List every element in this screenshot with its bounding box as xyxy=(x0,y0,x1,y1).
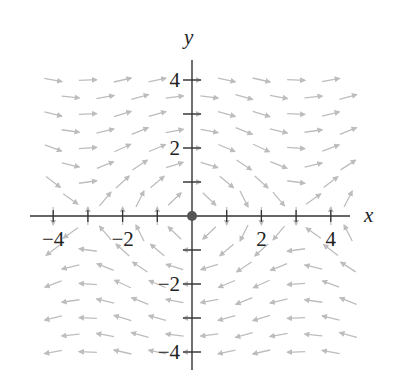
field-arrow xyxy=(44,316,61,320)
field-arrow xyxy=(44,78,62,81)
vector-field-plot: −4−22442−2−4 x y xyxy=(0,0,403,388)
field-arrow xyxy=(79,80,97,81)
field-arrow xyxy=(253,78,271,82)
field-arrow xyxy=(253,144,269,151)
field-arrow xyxy=(168,193,181,205)
field-arrow xyxy=(149,316,166,321)
field-arrow xyxy=(304,334,322,336)
field-arrow xyxy=(287,147,305,148)
field-arrow xyxy=(235,95,252,100)
field-arrow xyxy=(304,96,322,98)
field-arrow xyxy=(166,96,184,98)
field-arrow xyxy=(253,350,271,354)
field-arrow xyxy=(200,334,218,336)
field-arrow xyxy=(131,333,148,338)
field-arrow xyxy=(253,315,270,320)
field-arrow xyxy=(344,191,352,207)
x-tick-label: −2 xyxy=(111,227,133,251)
field-arrow xyxy=(114,350,132,354)
field-arrow xyxy=(237,160,252,170)
y-axis-label: y xyxy=(182,25,194,49)
field-arrow xyxy=(149,145,166,152)
field-arrow xyxy=(96,95,114,98)
field-arrow xyxy=(322,78,340,81)
field-arrow xyxy=(287,249,305,252)
field-arrow xyxy=(220,176,234,188)
field-arrow xyxy=(339,95,356,100)
field-arrow xyxy=(340,128,357,135)
field-arrow xyxy=(235,333,252,338)
field-arrow xyxy=(324,177,338,188)
field-arrow xyxy=(114,144,130,151)
field-arrow xyxy=(339,333,356,338)
field-arrow xyxy=(150,244,164,256)
field-arrow xyxy=(114,280,130,287)
field-arrow xyxy=(322,350,340,353)
field-arrow xyxy=(166,334,184,336)
field-arrow xyxy=(63,194,78,204)
field-arrow xyxy=(270,264,287,271)
field-arrow xyxy=(322,145,339,151)
field-arrow xyxy=(99,192,111,206)
field-arrow xyxy=(305,265,323,269)
field-arrow xyxy=(79,249,97,252)
field-arrow xyxy=(322,281,339,287)
field-arrow xyxy=(96,299,114,303)
field-arrow xyxy=(62,130,80,133)
field-arrow xyxy=(116,176,129,188)
field-arrow xyxy=(218,112,235,117)
field-arrow xyxy=(166,299,184,302)
field-arrow xyxy=(62,265,80,269)
field-arrow xyxy=(131,95,148,100)
y-tick-label: 4 xyxy=(170,68,181,92)
field-arrow xyxy=(218,145,235,152)
field-arrow xyxy=(99,226,111,240)
field-arrow xyxy=(306,194,321,204)
field-arrow xyxy=(237,262,252,272)
field-arrow xyxy=(79,147,97,148)
field-arrow xyxy=(341,262,356,272)
field-arrow xyxy=(79,352,97,353)
field-arrow xyxy=(114,111,131,116)
field-arrow xyxy=(270,95,288,98)
field-arrow xyxy=(132,128,149,135)
field-arrow xyxy=(273,226,285,240)
field-arrow xyxy=(114,78,132,82)
field-arrow xyxy=(44,350,62,353)
field-arrow xyxy=(166,162,183,167)
field-arrow xyxy=(79,283,97,284)
field-arrow xyxy=(44,112,61,116)
x-tick-label: −4 xyxy=(42,227,65,251)
field-arrow xyxy=(218,78,236,82)
field-arrow xyxy=(97,264,114,271)
field-arrow xyxy=(62,96,80,98)
field-arrow xyxy=(62,334,80,336)
field-arrow xyxy=(270,299,288,303)
field-arrow xyxy=(201,299,219,302)
field-arrow xyxy=(305,300,323,303)
field-arrow xyxy=(200,96,218,98)
field-arrow xyxy=(287,114,305,115)
field-arrow xyxy=(136,191,144,207)
field-arrow xyxy=(150,176,164,188)
field-arrow xyxy=(97,162,114,169)
x-axis-label: x xyxy=(363,203,374,227)
field-arrow xyxy=(273,192,285,206)
field-arrow xyxy=(240,191,248,207)
field-arrow xyxy=(240,225,248,241)
field-arrow xyxy=(79,114,97,115)
field-arrow xyxy=(148,78,166,82)
field-arrow xyxy=(46,177,60,188)
field-arrow xyxy=(79,318,97,319)
field-arrow xyxy=(166,129,184,132)
y-tick-label: 2 xyxy=(170,136,181,160)
x-tick-label: 4 xyxy=(326,227,337,251)
field-arrow xyxy=(306,228,321,238)
field-arrow xyxy=(270,162,287,169)
field-arrow xyxy=(287,80,305,81)
field-arrow xyxy=(322,112,339,116)
field-arrow xyxy=(96,333,114,336)
field-arrow xyxy=(203,193,216,205)
field-arrow xyxy=(132,298,149,305)
field-arrow xyxy=(79,181,97,184)
